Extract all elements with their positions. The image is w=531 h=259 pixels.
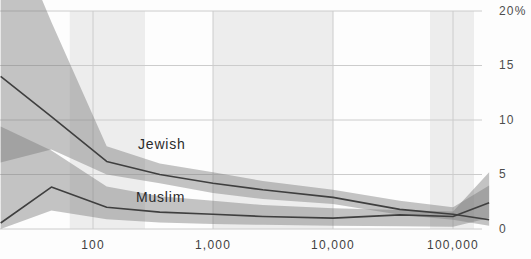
x-axis-label-1000: 1,000 bbox=[165, 238, 261, 252]
y-axis-label-20: 20% bbox=[499, 4, 527, 18]
series-label-jewish: Jewish bbox=[138, 137, 186, 152]
y-axis-label-5: 5 bbox=[499, 167, 507, 181]
chart-canvas bbox=[0, 0, 531, 259]
x-axis-label-100: 100 bbox=[45, 238, 141, 252]
x-axis-label-100000: 100,000 bbox=[405, 238, 501, 252]
x-axis-label-10000: 10,000 bbox=[285, 238, 381, 252]
series-label-muslim: Muslim bbox=[136, 190, 185, 205]
y-axis-label-10: 10 bbox=[499, 113, 515, 127]
y-axis-label-15: 15 bbox=[499, 58, 515, 72]
chart-container: 20% 15 10 5 0 100 1,000 10,000 100,000 J… bbox=[0, 0, 531, 259]
y-axis-label-0: 0 bbox=[499, 222, 507, 236]
